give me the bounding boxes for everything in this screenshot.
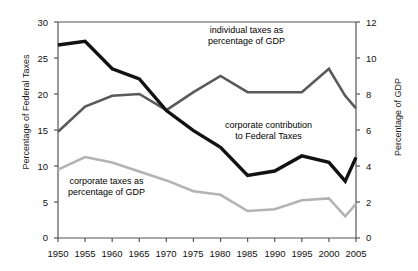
axes-group <box>58 22 356 238</box>
data-series-group <box>58 41 356 216</box>
series-line-1 <box>58 69 356 132</box>
plot-area <box>0 0 418 271</box>
chart-container: Percentage of Federal Taxes Percentage o… <box>0 0 418 271</box>
series-line-2 <box>58 157 356 216</box>
